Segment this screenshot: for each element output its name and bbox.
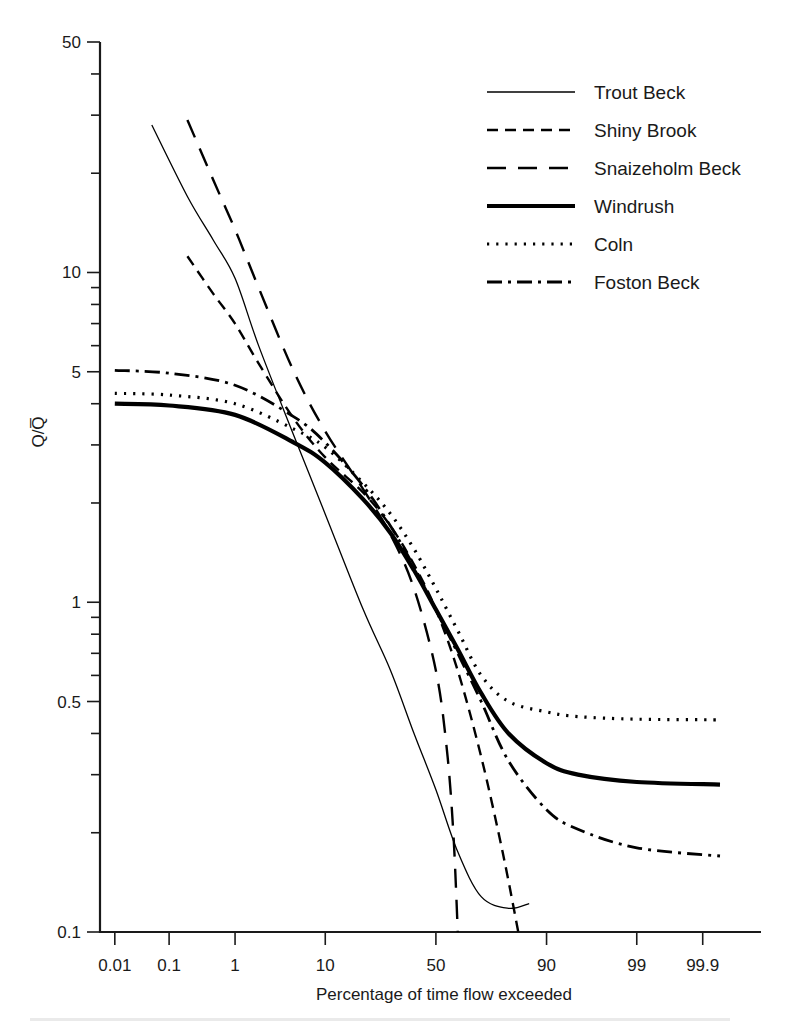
legend-label-windrush: Windrush: [594, 196, 674, 217]
y-tick-label: 10: [62, 263, 81, 282]
x-tick-label: 50: [426, 956, 445, 975]
chart-canvas: 5010510.50.1 0.010.111050909999.9 Trout …: [0, 0, 789, 1029]
figure-background: [0, 0, 789, 1029]
x-tick-label: 1: [230, 956, 239, 975]
x-tick-label: 99: [627, 956, 646, 975]
scan-artifact: [30, 1018, 730, 1021]
legend-label-foston-beck: Foston Beck: [594, 272, 700, 293]
y-axis-title-text: Q/Q̅: [29, 416, 48, 447]
y-tick-label: 50: [62, 33, 81, 52]
x-tick-label: 0.01: [98, 956, 131, 975]
y-tick-label: 5: [72, 363, 81, 382]
y-tick-label: 0.5: [57, 693, 81, 712]
legend-label-trout-beck: Trout Beck: [594, 82, 686, 103]
x-tick-label: 90: [537, 956, 556, 975]
y-axis-title: Q/Q̅: [29, 416, 48, 447]
legend-label-shiny-brook: Shiny Brook: [594, 120, 697, 141]
y-tick-label: 0.1: [57, 923, 81, 942]
y-tick-label: 1: [72, 593, 81, 612]
x-tick-label: 10: [316, 956, 335, 975]
legend-label-coln: Coln: [594, 234, 633, 255]
x-tick-label: 99.9: [686, 956, 719, 975]
x-tick-label: 0.1: [157, 956, 181, 975]
x-axis-title: Percentage of time flow exceeded: [316, 985, 572, 1004]
legend-label-snaizeholm-beck: Snaizeholm Beck: [594, 158, 741, 179]
flow-duration-curve-figure: 5010510.50.1 0.010.111050909999.9 Trout …: [0, 0, 789, 1029]
